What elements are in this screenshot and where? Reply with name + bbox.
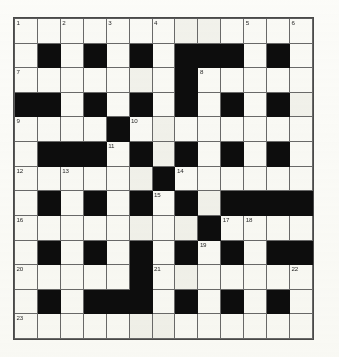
letter-cell[interactable] xyxy=(84,167,107,192)
letter-cell[interactable] xyxy=(175,19,198,44)
letter-cell[interactable] xyxy=(198,117,221,142)
letter-cell[interactable] xyxy=(61,265,84,290)
letter-cell[interactable] xyxy=(221,68,244,93)
letter-cell[interactable] xyxy=(244,290,267,315)
letter-cell[interactable]: 5 xyxy=(244,19,267,44)
letter-cell[interactable] xyxy=(175,216,198,241)
letter-cell[interactable] xyxy=(84,216,107,241)
letter-cell[interactable] xyxy=(267,68,290,93)
letter-cell[interactable] xyxy=(61,191,84,216)
letter-cell[interactable] xyxy=(107,68,130,93)
letter-cell[interactable] xyxy=(290,117,313,142)
letter-cell[interactable]: 3 xyxy=(107,19,130,44)
letter-cell[interactable] xyxy=(221,265,244,290)
letter-cell[interactable]: 4 xyxy=(153,19,176,44)
letter-cell[interactable] xyxy=(38,216,61,241)
letter-cell[interactable] xyxy=(221,167,244,192)
letter-cell[interactable] xyxy=(38,167,61,192)
letter-cell[interactable] xyxy=(84,117,107,142)
letter-cell[interactable]: 15 xyxy=(153,191,176,216)
letter-cell[interactable] xyxy=(38,314,61,339)
letter-cell[interactable] xyxy=(221,19,244,44)
letter-cell[interactable]: 23 xyxy=(15,314,38,339)
letter-cell[interactable] xyxy=(244,167,267,192)
letter-cell[interactable] xyxy=(290,93,313,118)
letter-cell[interactable] xyxy=(198,290,221,315)
letter-cell[interactable] xyxy=(61,68,84,93)
letter-cell[interactable]: 20 xyxy=(15,265,38,290)
letter-cell[interactable] xyxy=(61,117,84,142)
letter-cell[interactable] xyxy=(153,44,176,69)
letter-cell[interactable] xyxy=(175,265,198,290)
letter-cell[interactable] xyxy=(107,241,130,266)
letter-cell[interactable] xyxy=(290,167,313,192)
letter-cell[interactable] xyxy=(107,191,130,216)
letter-cell[interactable]: 8 xyxy=(198,68,221,93)
letter-cell[interactable] xyxy=(107,265,130,290)
letter-cell[interactable]: 22 xyxy=(290,265,313,290)
letter-cell[interactable] xyxy=(15,241,38,266)
letter-cell[interactable] xyxy=(38,19,61,44)
letter-cell[interactable] xyxy=(175,314,198,339)
letter-cell[interactable] xyxy=(84,265,107,290)
letter-cell[interactable] xyxy=(153,314,176,339)
letter-cell[interactable] xyxy=(130,167,153,192)
letter-cell[interactable] xyxy=(153,241,176,266)
letter-cell[interactable] xyxy=(221,314,244,339)
letter-cell[interactable] xyxy=(107,216,130,241)
letter-cell[interactable] xyxy=(267,167,290,192)
letter-cell[interactable] xyxy=(130,216,153,241)
letter-cell[interactable] xyxy=(107,314,130,339)
letter-cell[interactable] xyxy=(290,314,313,339)
letter-cell[interactable] xyxy=(267,314,290,339)
letter-cell[interactable] xyxy=(84,68,107,93)
letter-cell[interactable] xyxy=(175,117,198,142)
letter-cell[interactable] xyxy=(107,44,130,69)
letter-cell[interactable] xyxy=(198,167,221,192)
letter-cell[interactable] xyxy=(267,19,290,44)
letter-cell[interactable]: 2 xyxy=(61,19,84,44)
letter-cell[interactable] xyxy=(153,216,176,241)
letter-cell[interactable] xyxy=(15,142,38,167)
letter-cell[interactable] xyxy=(38,265,61,290)
letter-cell[interactable] xyxy=(244,117,267,142)
letter-cell[interactable] xyxy=(244,241,267,266)
letter-cell[interactable] xyxy=(61,93,84,118)
letter-cell[interactable] xyxy=(130,19,153,44)
letter-cell[interactable] xyxy=(153,117,176,142)
letter-cell[interactable] xyxy=(244,93,267,118)
letter-cell[interactable] xyxy=(15,290,38,315)
letter-cell[interactable]: 19 xyxy=(198,241,221,266)
letter-cell[interactable] xyxy=(84,19,107,44)
letter-cell[interactable] xyxy=(38,117,61,142)
letter-cell[interactable] xyxy=(130,314,153,339)
letter-cell[interactable] xyxy=(198,191,221,216)
letter-cell[interactable] xyxy=(244,314,267,339)
letter-cell[interactable] xyxy=(290,142,313,167)
letter-cell[interactable] xyxy=(267,216,290,241)
letter-cell[interactable] xyxy=(290,290,313,315)
letter-cell[interactable] xyxy=(107,167,130,192)
letter-cell[interactable] xyxy=(153,68,176,93)
letter-cell[interactable] xyxy=(107,93,130,118)
letter-cell[interactable]: 13 xyxy=(61,167,84,192)
letter-cell[interactable]: 14 xyxy=(175,167,198,192)
letter-cell[interactable] xyxy=(244,265,267,290)
letter-cell[interactable] xyxy=(61,314,84,339)
letter-cell[interactable] xyxy=(61,290,84,315)
letter-cell[interactable] xyxy=(61,44,84,69)
letter-cell[interactable] xyxy=(244,44,267,69)
letter-cell[interactable] xyxy=(267,265,290,290)
letter-cell[interactable] xyxy=(290,68,313,93)
letter-cell[interactable] xyxy=(61,241,84,266)
letter-cell[interactable] xyxy=(267,117,290,142)
letter-cell[interactable] xyxy=(221,117,244,142)
letter-cell[interactable] xyxy=(244,142,267,167)
letter-cell[interactable]: 12 xyxy=(15,167,38,192)
letter-cell[interactable]: 7 xyxy=(15,68,38,93)
letter-cell[interactable] xyxy=(15,44,38,69)
letter-cell[interactable]: 21 xyxy=(153,265,176,290)
letter-cell[interactable] xyxy=(244,68,267,93)
letter-cell[interactable]: 18 xyxy=(244,216,267,241)
letter-cell[interactable] xyxy=(153,142,176,167)
